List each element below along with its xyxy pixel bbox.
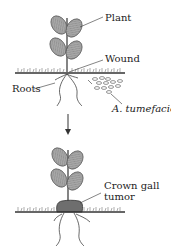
leader-line <box>80 193 101 203</box>
label-roots: Roots <box>12 83 41 94</box>
leaf-icon <box>63 38 86 62</box>
leaf-icon <box>64 148 87 172</box>
roots <box>55 74 82 106</box>
down-arrow-icon <box>65 114 71 135</box>
label-crown-gall: Crown gall <box>104 180 159 191</box>
soil-surface-grass <box>18 68 120 72</box>
crown-gall-tumor <box>57 200 83 212</box>
bacteria-cluster <box>92 77 122 94</box>
label-wound: Wound <box>105 53 141 64</box>
leaf-icon <box>63 16 86 40</box>
infected-plant-stage: Crown gall tumor <box>15 145 159 246</box>
label-tumor: tumor <box>104 191 135 202</box>
label-plant: Plant <box>105 12 131 23</box>
roots <box>54 213 90 246</box>
healthy-plant-stage: Plant Wound Roots A. tumefaciens <box>12 12 171 114</box>
leaf-icon <box>64 169 87 193</box>
label-agrobacterium: A. tumefaciens <box>111 103 171 114</box>
crown-gall-diagram: Plant Wound Roots A. tumefaciens Crown g… <box>0 0 171 250</box>
